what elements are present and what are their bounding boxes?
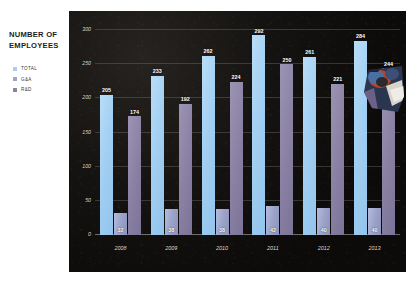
x-axis-tick-label: 2012 — [318, 245, 330, 251]
bar-rd[interactable]: 192 — [179, 104, 192, 235]
x-axis-tick-label: 2013 — [369, 245, 381, 251]
bar-ga[interactable]: 32 — [114, 213, 127, 235]
plot-area: 050100150200250300 205321742008233381922… — [95, 30, 400, 235]
bar-group: 261402212012 — [298, 30, 349, 235]
bar-value-label: 40 — [321, 227, 327, 233]
legend-item-total[interactable]: TOTAL — [13, 64, 68, 73]
legend-swatch-icon — [13, 88, 17, 92]
bar-group: 205321742008 — [95, 30, 146, 235]
bar-rd[interactable]: 224 — [230, 82, 243, 235]
bar-value-label: 174 — [130, 109, 139, 115]
bar-value-label: 292 — [254, 28, 263, 34]
bar-group: 284402442013 — [349, 30, 400, 235]
y-axis-tick-label: 50 — [85, 197, 91, 203]
legend-item-label: G&A — [21, 77, 32, 82]
legend-swatch-icon — [13, 77, 17, 81]
bar-value-label: 38 — [219, 227, 225, 233]
bar-group: 233381922009 — [146, 30, 197, 235]
title-legend-panel: NUMBER OF EMPLOYEES TOTALG&AR&D — [0, 0, 69, 285]
x-axis-tick-label: 2009 — [165, 245, 177, 251]
bar-value-label: 262 — [204, 48, 213, 54]
bar-value-label: 205 — [102, 87, 111, 93]
chart-legend: TOTALG&AR&D — [13, 64, 68, 96]
bar-total[interactable]: 205 — [100, 95, 113, 235]
bar-rd[interactable]: 244 — [382, 68, 395, 235]
x-axis-tick-label: 2010 — [216, 245, 228, 251]
bar-total[interactable]: 262 — [202, 56, 215, 235]
bar-group: 292422502011 — [247, 30, 298, 235]
bar-rd[interactable]: 250 — [280, 64, 293, 235]
bar-value-label: 32 — [117, 227, 123, 233]
y-axis-tick-label: 0 — [88, 231, 91, 237]
bar-total[interactable]: 292 — [252, 35, 265, 235]
page-title: NUMBER OF EMPLOYEES — [9, 30, 67, 51]
bar-value-label: 233 — [153, 68, 162, 74]
bar-value-label: 250 — [282, 57, 291, 63]
bar-total[interactable]: 233 — [151, 76, 164, 235]
chart-panel: 050100150200250300 205321742008233381922… — [69, 11, 406, 272]
bar-ga[interactable]: 38 — [216, 209, 229, 235]
legend-item-g-a[interactable]: G&A — [13, 75, 68, 84]
bar-rd[interactable]: 174 — [128, 116, 141, 235]
y-axis-tick-label: 150 — [82, 129, 91, 135]
x-axis-tick-label: 2011 — [267, 245, 279, 251]
bar-value-label: 221 — [333, 76, 342, 82]
bar-ga[interactable]: 40 — [317, 208, 330, 235]
bar-value-label: 244 — [384, 61, 393, 67]
bar-total[interactable]: 284 — [354, 41, 367, 235]
bar-value-label: 261 — [305, 49, 314, 55]
legend-item-r-d[interactable]: R&D — [13, 85, 68, 94]
legend-item-label: TOTAL — [21, 66, 37, 71]
bar-ga[interactable]: 38 — [165, 209, 178, 235]
bar-ga[interactable]: 40 — [368, 208, 381, 235]
y-axis-tick-label: 250 — [82, 60, 91, 66]
bar-value-label: 38 — [168, 227, 174, 233]
y-axis-tick-label: 300 — [82, 26, 91, 32]
bar-rd[interactable]: 221 — [331, 84, 344, 235]
bar-value-label: 40 — [372, 227, 378, 233]
y-axis-tick-label: 200 — [82, 94, 91, 100]
bar-groups: 2053217420082333819220092623822420102924… — [95, 30, 400, 235]
x-axis-tick-label: 2008 — [114, 245, 126, 251]
bar-value-label: 224 — [232, 74, 241, 80]
y-axis-tick-label: 100 — [82, 163, 91, 169]
bar-ga[interactable]: 42 — [266, 206, 279, 235]
bar-value-label: 192 — [181, 96, 190, 102]
legend-swatch-icon — [13, 67, 17, 71]
legend-item-label: R&D — [21, 87, 32, 92]
bar-total[interactable]: 261 — [303, 57, 316, 235]
bar-value-label: 42 — [270, 227, 276, 233]
slide-canvas: NUMBER OF EMPLOYEES TOTALG&AR&D 05010015… — [0, 0, 406, 285]
bar-value-label: 284 — [356, 33, 365, 39]
bar-group: 262382242010 — [197, 30, 248, 235]
